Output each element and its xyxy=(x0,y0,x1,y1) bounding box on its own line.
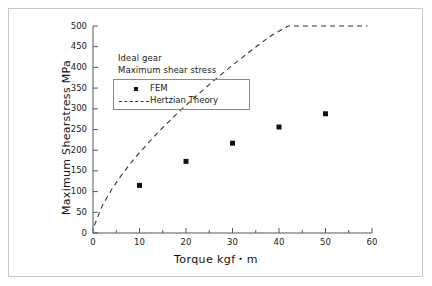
y-tick-label: 450 xyxy=(45,41,87,51)
x-tick-label: 60 xyxy=(352,237,392,247)
x-axis-ticks xyxy=(93,228,372,233)
fem-data-point xyxy=(277,125,282,130)
y-tick-label: 250 xyxy=(45,124,87,134)
legend-dashed-line-icon xyxy=(119,101,149,102)
legend-square-marker-icon xyxy=(134,87,138,91)
y-tick-label: 150 xyxy=(45,165,87,175)
annotation-maximum-shear-stress: Maximum shear stress xyxy=(118,65,216,75)
y-tick-label: 50 xyxy=(45,207,87,217)
y-tick-label: 200 xyxy=(45,145,87,155)
y-tick-label: 100 xyxy=(45,186,87,196)
fem-data-point xyxy=(184,159,189,164)
y-tick-label: 350 xyxy=(45,83,87,93)
legend-item-fem: FEM xyxy=(150,83,168,93)
fem-data-point xyxy=(323,111,328,116)
fem-data-point xyxy=(137,183,142,188)
fem-data-points xyxy=(137,111,328,188)
y-tick-label: 500 xyxy=(45,21,87,31)
x-axis-title: Torque kgf・m xyxy=(0,250,432,266)
legend-item-hertzian-theory: Hertzian Theory xyxy=(150,95,218,105)
y-tick-label: 300 xyxy=(45,103,87,113)
x-tick-label: 30 xyxy=(213,237,253,247)
annotation-ideal-gear: Ideal gear xyxy=(118,53,162,63)
x-tick-label: 0 xyxy=(73,237,113,247)
x-tick-label: 50 xyxy=(306,237,346,247)
x-tick-label: 10 xyxy=(120,237,160,247)
y-axis-ticks xyxy=(93,26,98,233)
x-tick-label: 40 xyxy=(259,237,299,247)
fem-data-point xyxy=(230,141,235,146)
x-tick-label: 20 xyxy=(166,237,206,247)
y-tick-label: 400 xyxy=(45,62,87,72)
y-tick-label: 0 xyxy=(45,228,87,238)
